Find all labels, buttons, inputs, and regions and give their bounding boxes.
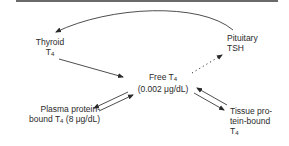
tissue-label-line2: tein-bound	[230, 116, 272, 126]
arrow-thyroid-to-free-t4	[59, 59, 123, 77]
arrow-pituitary-to-thyroid	[56, 11, 233, 32]
plasma-label-line1: Plasma protein-	[14, 104, 100, 114]
thyroid-t4-label: T4	[30, 47, 70, 59]
plasma-label-line2: bound T4 (8 μg/dL)	[14, 114, 100, 126]
pituitary-label: Pituitary	[227, 33, 258, 43]
thyroid-label: Thyroid	[30, 37, 70, 47]
node-pituitary-tsh: Pituitary TSH	[227, 33, 258, 53]
node-plasma-protein-bound-t4: Plasma protein- bound T4 (8 μg/dL)	[14, 104, 100, 126]
tissue-label-line1: Tissue pro-	[230, 106, 272, 116]
arrow-tissue-to-free-t4	[197, 88, 227, 105]
free-t4-label: Free T4	[128, 72, 198, 84]
node-tissue-protein-bound-t4: Tissue pro- tein-bound T4	[230, 106, 272, 138]
node-thyroid-t4: Thyroid T4	[30, 37, 70, 59]
tsh-label: TSH	[227, 43, 258, 53]
free-t4-concentration: (0.002 μg/dL)	[128, 84, 198, 94]
tissue-label-line3: T4	[230, 126, 272, 138]
arrow-free-t4-to-tissue	[194, 93, 224, 110]
node-free-t4: Free T4 (0.002 μg/dL)	[128, 72, 198, 94]
arrow-free-t4-to-pituitary-dotted	[192, 55, 222, 73]
